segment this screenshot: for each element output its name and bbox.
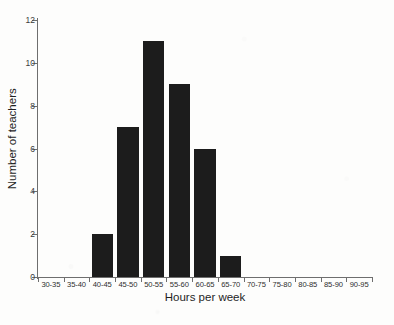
y-axis-title-label: Number of teachers bbox=[6, 88, 18, 189]
x-tick-label: 40-45 bbox=[89, 281, 115, 289]
bar bbox=[220, 256, 241, 277]
x-tick-label: 70-75 bbox=[244, 281, 270, 289]
x-tick-label: 90-95 bbox=[346, 281, 372, 289]
plot-area: 024681012 bbox=[38, 20, 372, 277]
bar bbox=[92, 234, 113, 277]
x-tick-label: 85-90 bbox=[321, 281, 347, 289]
y-tick-label: 12 bbox=[26, 16, 35, 25]
x-axis-line bbox=[37, 277, 372, 278]
x-tick-label: 75-80 bbox=[269, 281, 295, 289]
x-tick-label: 45-50 bbox=[115, 281, 141, 289]
bar bbox=[169, 84, 190, 277]
x-tick-label: 35-40 bbox=[64, 281, 90, 289]
y-axis-title: Number of teachers bbox=[4, 0, 20, 277]
y-tick-label: 10 bbox=[26, 59, 35, 68]
x-tick-label: 60-65 bbox=[192, 281, 218, 289]
x-tick-label: 55-60 bbox=[166, 281, 192, 289]
x-axis-title-label: Hours per week bbox=[165, 291, 246, 303]
y-tick-label: 2 bbox=[30, 230, 35, 239]
x-tick-label: 30-35 bbox=[38, 281, 64, 289]
y-tick-label: 6 bbox=[30, 144, 35, 153]
histogram-figure: Number of teachers 024681012 30-3535-404… bbox=[0, 0, 394, 325]
bar bbox=[117, 127, 138, 277]
x-tick-label: 50-55 bbox=[141, 281, 167, 289]
x-axis-title: Hours per week bbox=[38, 292, 372, 304]
bar bbox=[194, 149, 215, 278]
y-tick-label: 4 bbox=[30, 187, 35, 196]
y-tick-label: 0 bbox=[30, 273, 35, 282]
x-tick-mark bbox=[372, 277, 373, 282]
x-tick-label: 80-85 bbox=[295, 281, 321, 289]
x-tick-label: 65-70 bbox=[218, 281, 244, 289]
y-tick-label: 8 bbox=[30, 101, 35, 110]
bar bbox=[143, 41, 164, 277]
